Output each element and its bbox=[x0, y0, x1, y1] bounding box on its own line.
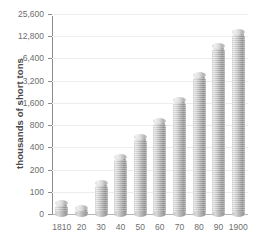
y-axis-tickmark bbox=[48, 14, 52, 15]
gridline bbox=[52, 36, 248, 37]
bar-texture bbox=[95, 186, 108, 214]
y-axis-tickmark bbox=[48, 214, 52, 215]
y-axis-tick-label: 1,600 bbox=[4, 98, 44, 108]
bar bbox=[75, 208, 88, 214]
bar-base-ellipse bbox=[232, 211, 245, 217]
bar-base-ellipse bbox=[153, 211, 166, 217]
y-axis-tick-label: 400 bbox=[4, 142, 44, 152]
y-axis-tickmark bbox=[48, 81, 52, 82]
y-axis-tick-label: 0 bbox=[4, 209, 44, 219]
bar bbox=[134, 137, 147, 214]
bar-base-ellipse bbox=[212, 211, 225, 217]
bar-texture bbox=[114, 160, 127, 214]
bar-top-ellipse bbox=[173, 97, 186, 103]
bar-texture bbox=[134, 140, 147, 214]
bar bbox=[95, 183, 108, 214]
y-axis-tickmark bbox=[48, 58, 52, 59]
bar bbox=[153, 121, 166, 214]
bar-texture bbox=[153, 124, 166, 214]
y-axis-tickmark bbox=[48, 147, 52, 148]
bar-chart: thousands of short tons 25,60012,8006,40… bbox=[0, 0, 254, 249]
gridline bbox=[52, 14, 248, 15]
bar-top-ellipse bbox=[114, 154, 127, 160]
y-axis-tickmark bbox=[48, 125, 52, 126]
bar-base-ellipse bbox=[55, 211, 68, 217]
bar-texture bbox=[212, 49, 225, 214]
bar bbox=[55, 203, 68, 214]
y-axis-tick-label: 6,400 bbox=[4, 53, 44, 63]
bar-top-ellipse bbox=[212, 43, 225, 49]
bar-base-ellipse bbox=[193, 211, 206, 217]
y-axis-tickmark bbox=[48, 103, 52, 104]
bar bbox=[114, 157, 127, 214]
y-axis-tickmark bbox=[48, 170, 52, 171]
bar-top-ellipse bbox=[193, 72, 206, 78]
bar bbox=[173, 100, 186, 214]
x-axis-tick-label: 1900 bbox=[223, 222, 253, 232]
y-axis-tick-label: 100 bbox=[4, 187, 44, 197]
y-axis-tick-label: 25,600 bbox=[4, 9, 44, 19]
y-axis-tickmark bbox=[48, 192, 52, 193]
bar bbox=[232, 32, 245, 214]
y-axis-tick-label: 12,800 bbox=[4, 31, 44, 41]
bar bbox=[212, 46, 225, 214]
y-axis-tickmark bbox=[48, 36, 52, 37]
y-axis-tick-label: 200 bbox=[4, 165, 44, 175]
bar-texture bbox=[173, 103, 186, 214]
bar-base-ellipse bbox=[95, 211, 108, 217]
bar-base-ellipse bbox=[75, 211, 88, 217]
bar-base-ellipse bbox=[173, 211, 186, 217]
y-axis-tick-label: 3,200 bbox=[4, 76, 44, 86]
plot-area: 25,60012,8006,4003,2001,6008004002001000 bbox=[52, 14, 248, 214]
bar-base-ellipse bbox=[114, 211, 127, 217]
bar-top-ellipse bbox=[134, 134, 147, 140]
bar-top-ellipse bbox=[55, 200, 68, 206]
bar bbox=[193, 75, 206, 214]
bar-base-ellipse bbox=[134, 211, 147, 217]
y-axis-tick-label: 800 bbox=[4, 120, 44, 130]
bar-texture bbox=[193, 78, 206, 214]
bar-texture bbox=[232, 35, 245, 214]
